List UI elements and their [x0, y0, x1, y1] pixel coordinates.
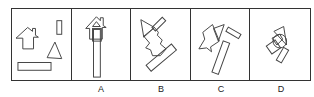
house-shape — [16, 27, 38, 48]
option-panel-b[interactable] — [131, 9, 191, 80]
long-rectangle-shape — [93, 29, 100, 77]
option-c-shapes — [191, 9, 250, 80]
triangle-shape — [47, 42, 62, 59]
question-panel — [12, 9, 72, 80]
small-rectangle-shape — [152, 17, 166, 31]
option-b-shapes — [131, 9, 190, 80]
house-shape — [199, 25, 219, 52]
long-rectangle-shape — [212, 41, 230, 74]
long-rectangle-shape — [146, 44, 176, 71]
option-panel-c[interactable] — [191, 9, 251, 80]
option-label-a: A — [71, 84, 131, 94]
option-a-shapes — [72, 9, 131, 80]
triangle-shape — [92, 22, 100, 27]
option-label-c: C — [191, 84, 251, 94]
triangle-shape — [213, 25, 224, 42]
puzzle-strip — [11, 8, 311, 81]
long-rectangle-shape — [18, 62, 51, 70]
small-rectangle-shape — [57, 21, 62, 35]
option-label-d: D — [251, 84, 311, 94]
option-d-shapes — [250, 9, 310, 80]
question-shapes — [12, 9, 71, 80]
option-panel-a[interactable] — [72, 9, 132, 80]
small-rectangle-shape — [226, 27, 241, 39]
option-panel-d[interactable] — [250, 9, 310, 80]
option-label-b: B — [131, 84, 191, 94]
